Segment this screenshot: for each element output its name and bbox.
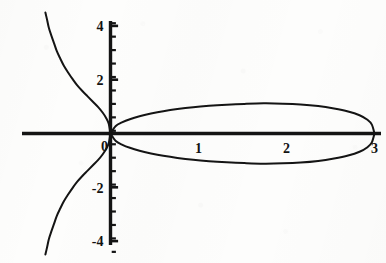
plot-page: 42-2-40123 xyxy=(0,0,386,263)
y-axis-tick-label: 2 xyxy=(97,73,104,88)
axes-group xyxy=(22,21,381,245)
x-axis-tick-label: 1 xyxy=(195,141,202,156)
origin-tick-label: 0 xyxy=(101,139,108,154)
x-axis-tick-label: 3 xyxy=(371,141,378,156)
x-axis-tick-label: 2 xyxy=(283,141,290,156)
y-axis-tick-label: -4 xyxy=(92,234,104,249)
y-axis-tick-label: 4 xyxy=(97,19,104,34)
curve-loop-lower-path xyxy=(111,134,375,164)
curve-loop-upper-path xyxy=(111,103,375,133)
plot-figure: 42-2-40123 xyxy=(0,0,386,263)
y-axis-tick-label: -2 xyxy=(92,181,104,196)
